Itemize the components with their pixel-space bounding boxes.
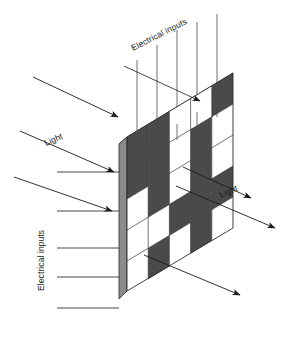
light-in-arrow-1 — [33, 77, 118, 117]
light-input-arrows — [14, 77, 118, 211]
panel-side-face — [119, 137, 127, 299]
light-out-arrow-3 — [144, 255, 240, 295]
top-label-leader — [124, 66, 200, 101]
light-in-arrow-2 — [20, 131, 114, 172]
diagram-svg: Electrical inputs Light Light Electrical… — [0, 0, 295, 341]
light-in-arrow-3 — [14, 177, 112, 211]
label-electrical-inputs-top: Electrical inputs — [129, 16, 188, 53]
label-electrical-inputs-left: Electrical inputs — [36, 230, 46, 291]
left-electrical-wires — [57, 172, 119, 308]
figure-container: Electrical inputs Light Light Electrical… — [0, 0, 295, 341]
